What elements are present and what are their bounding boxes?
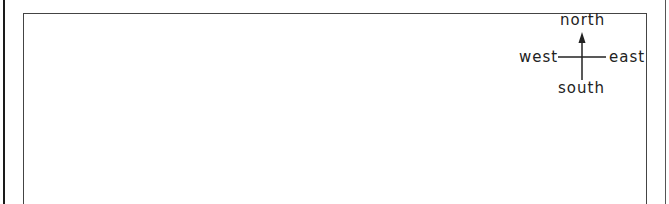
label-north: north — [560, 12, 605, 28]
label-west: west — [519, 49, 558, 65]
label-south: south — [558, 80, 605, 96]
label-east: east — [609, 49, 645, 65]
compass-arrows-icon — [0, 0, 669, 204]
